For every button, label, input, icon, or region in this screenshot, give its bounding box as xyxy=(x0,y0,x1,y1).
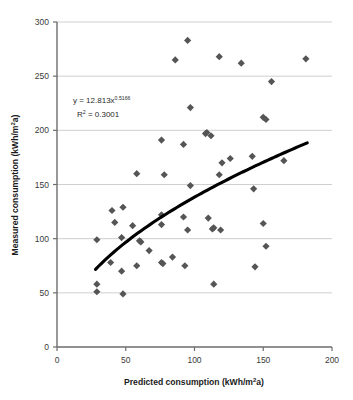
y-tick-label: 0 xyxy=(44,342,49,352)
x-tick-label: 50 xyxy=(121,355,131,365)
scatter-chart: 050100150200250300 050100150200 y = 12.8… xyxy=(0,0,353,400)
x-tick-label: 200 xyxy=(325,355,339,365)
chart-canvas: 050100150200250300 050100150200 y = 12.8… xyxy=(0,0,353,400)
y-tick-label: 200 xyxy=(35,125,49,135)
y-tick-label: 250 xyxy=(35,71,49,81)
x-axis-title: Predicted consumption (kWh/m2a) xyxy=(124,377,264,387)
x-tick-label: 150 xyxy=(256,355,270,365)
x-tick-label: 100 xyxy=(187,355,201,365)
y-axis-title: Measured consumption (kWh/m2a) xyxy=(10,114,20,255)
y-tick-label: 50 xyxy=(40,288,50,298)
x-tick-label: 0 xyxy=(55,355,60,365)
y-tick-label: 100 xyxy=(35,234,49,244)
y-tick-label: 150 xyxy=(35,180,49,190)
y-tick-label: 300 xyxy=(35,17,49,27)
